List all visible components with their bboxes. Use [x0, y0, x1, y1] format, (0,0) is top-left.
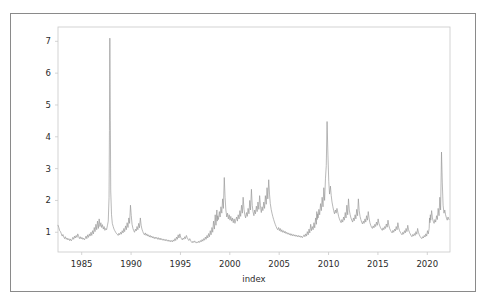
- y-tick-label: 5: [0, 101, 51, 110]
- y-tick-label: 2: [0, 196, 51, 205]
- y-tick-label: 7: [0, 37, 51, 46]
- x-tick-label: 2015: [367, 260, 389, 269]
- y-tick-label: 6: [0, 69, 51, 78]
- x-tick-label: 1990: [120, 260, 142, 269]
- x-tick-marks: [82, 252, 428, 255]
- axes-spines: [58, 27, 450, 252]
- x-tick-label: 1995: [170, 260, 192, 269]
- x-tick-label: 2005: [268, 260, 290, 269]
- y-tick-label: 1: [0, 228, 51, 237]
- x-tick-label: 2010: [318, 260, 340, 269]
- x-tick-label: 2000: [219, 260, 241, 269]
- x-axis-title: index: [242, 274, 265, 284]
- x-tick-label: 1985: [71, 260, 93, 269]
- x-tick-label: 2020: [416, 260, 438, 269]
- y-tick-label: 3: [0, 164, 51, 173]
- axes-background: [58, 27, 450, 252]
- y-tick-label: 4: [0, 133, 51, 142]
- y-tick-marks: [55, 41, 58, 232]
